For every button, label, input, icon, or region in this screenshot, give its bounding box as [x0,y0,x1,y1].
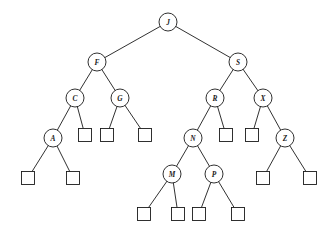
tree-edge-F-C [80,70,93,91]
tree-node-R: R [206,89,224,107]
tree-edge-P-nil-P-left [201,182,210,207]
node-label-A: A [50,134,56,143]
leaf-node-nil-M-left [138,208,151,221]
node-label-P: P [212,170,217,179]
leaf-node-nil-A-left [22,172,35,185]
tree-edge-J-F [105,26,160,57]
tree-node-N: N [184,129,202,147]
node-label-F: F [95,58,100,67]
tree-edge-X-Z [267,106,280,130]
node-label-M: M [168,170,176,179]
tree-edge-S-R [220,70,233,91]
leaf-node-nil-P-right [232,208,245,221]
tree-edge-M-nil-M-right [173,183,177,208]
tree-edge-C-A [57,106,70,130]
tree-edge-G-nil-G-left [109,106,117,128]
leaf-node-nil-P-left [193,208,206,221]
tree-edge-R-nil-R-right [218,107,225,129]
tree-edge-M-nil-M-left [149,181,167,207]
node-label-Z: Z [282,134,288,143]
tree-edge-A-nil-A-left [32,146,48,172]
leaf-node-nil-M-right [172,208,185,221]
tree-edge-N-P [198,146,210,166]
node-label-S: S [236,58,240,67]
tree-edge-G-nil-G-right [125,105,141,128]
tree-edge-X-nil-X-left [254,107,261,129]
node-label-J: J [165,18,170,27]
tree-node-C: C [66,89,84,107]
tree-node-G: G [111,89,129,107]
tree-edge-S-X [243,69,258,90]
tree-node-Z: Z [276,129,294,147]
leaf-node-nil-C-right [79,129,92,142]
tree-node-F: F [88,53,106,71]
tree-edge-A-nil-A-right [57,146,70,171]
tree-node-P: P [205,165,223,183]
node-label-C: C [73,94,78,103]
tree-node-A: A [44,129,62,147]
node-label-N: N [189,134,196,143]
tree-node-S: S [229,53,247,71]
tree-canvas: JFSCGRXANZMP [0,0,334,234]
node-label-G: G [117,94,123,103]
leaf-node-nil-Z-left [257,172,270,185]
tree-edge-Z-nil-Z-right [290,146,306,172]
tree-node-M: M [163,165,181,183]
tree-edge-P-nil-P-right [219,182,234,208]
leaf-node-nil-G-left [101,129,114,142]
tree-edge-J-S [176,26,230,57]
tree-node-X: X [254,89,272,107]
internal-nodes-layer: JFSCGRXANZMP [44,13,294,183]
tree-edge-Z-nil-Z-left [267,146,281,172]
leaf-node-nil-G-right [139,129,152,142]
node-label-R: R [212,94,218,103]
tree-edge-F-G [102,70,115,91]
tree-edge-R-N [197,106,210,130]
tree-edge-N-M [177,146,189,166]
binary-tree-figure: JFSCGRXANZMP [0,0,334,234]
leaf-node-nil-X-left [246,129,259,142]
tree-node-J: J [159,13,177,31]
tree-edge-C-nil-C-right [77,107,83,129]
leaf-node-nil-R-right [220,129,233,142]
leaf-node-nil-A-right [67,172,80,185]
leaf-node-nil-Z-right [304,172,317,185]
